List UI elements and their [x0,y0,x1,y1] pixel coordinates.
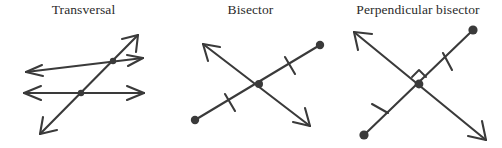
panel-transversal: Transversal [0,0,167,148]
geometry-figure-row: Transversal [0,0,502,148]
right-angle-marker [412,70,426,77]
intersection-point-upper [110,58,116,64]
midpoint-intersection [415,80,424,89]
segment-endpoint-upper-right [316,41,324,49]
parallel-line-upper [26,58,143,72]
transversal-diagram [0,0,167,148]
segment-endpoint-lower-left [359,130,368,139]
intersection-point-lower [78,90,84,96]
tick-mark-lower [372,104,388,113]
segment-endpoint-lower-left [191,116,199,124]
panel-perpendicular-bisector: Perpendicular bisector [334,0,502,148]
bisector-diagram [167,0,334,148]
panel-bisector: Bisector [167,0,334,148]
segment-endpoint-upper-right [468,25,477,34]
transversal-line [40,35,138,134]
perpendicular-bisector-diagram [334,0,502,148]
midpoint-intersection [255,80,263,88]
